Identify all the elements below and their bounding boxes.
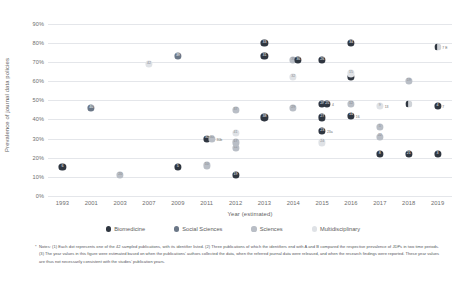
gridline [48, 100, 452, 101]
legend-swatch-icon [174, 226, 179, 231]
data-point[interactable]: 24 [319, 139, 326, 146]
gridline [48, 196, 452, 197]
y-tick-label: 40% [33, 116, 45, 122]
data-point-label: 5 [177, 165, 179, 169]
data-point-label: 20 [118, 173, 122, 177]
data-point-label: 40 [89, 106, 93, 110]
plot-area: 0%10%20%30%40%50%60%70%80%90% 1993200120… [48, 14, 452, 196]
footnote: *Notes: (1) Each dot represents one of t… [39, 243, 439, 265]
data-point-note: 7 [442, 105, 444, 109]
data-point[interactable]: 32 [290, 74, 297, 81]
data-point-label: 15 [349, 72, 353, 76]
legend-label: Biomedicine [114, 226, 145, 232]
footnote-marker: * [35, 243, 37, 250]
data-point[interactable]: 23 [319, 127, 326, 134]
data-point-label: 30 [210, 137, 214, 141]
x-tick-label: 2013 [258, 200, 271, 206]
data-point[interactable]: 41 [232, 129, 239, 136]
data-point[interactable]: 5 [174, 164, 181, 171]
data-point-label: 19 [407, 79, 411, 83]
data-point[interactable]: 29 [290, 104, 297, 111]
data-point-note: 16 [356, 115, 360, 119]
y-tick-label: 60% [33, 78, 45, 84]
legend-item-social-sciences[interactable]: Social Sciences [174, 226, 222, 232]
legend-item-biomedicine[interactable]: Biomedicine [106, 226, 145, 232]
data-point[interactable]: 21 [405, 150, 412, 157]
data-point[interactable]: 5 [376, 123, 383, 130]
data-point[interactable]: 3 [434, 150, 441, 157]
data-point[interactable] [405, 100, 412, 107]
data-point-label: 41 [234, 131, 238, 135]
data-point-note: 13 [385, 105, 389, 109]
x-axis-title: Year (estimated) [228, 211, 273, 217]
data-point-note: 23a [327, 130, 333, 134]
data-point[interactable]: 33 [261, 39, 268, 46]
data-point[interactable]: 42 [145, 60, 152, 67]
legend-swatch-icon [251, 226, 256, 231]
legend-item-multidisciplinary[interactable]: Multidisciplinary [312, 226, 360, 232]
x-tick-label: 2018 [402, 200, 415, 206]
gridline [48, 177, 452, 178]
data-point[interactable]: 34 [347, 39, 354, 46]
data-point-label: 36 [296, 58, 300, 62]
data-point-label: 9 [379, 104, 381, 108]
data-point-label: 23 [320, 129, 324, 133]
data-point-label: 10 [205, 164, 209, 168]
gridline [48, 158, 452, 159]
data-point[interactable]: 4 [434, 102, 441, 109]
data-point[interactable]: 6 [59, 164, 66, 171]
y-tick-label: 20% [33, 155, 45, 161]
data-point[interactable]: 30 [208, 135, 215, 142]
legend-label: Multidisciplinary [320, 226, 360, 232]
data-point-label: 42 [147, 62, 151, 66]
data-point-label: 29 [291, 106, 295, 110]
x-tick-label: 2012 [229, 200, 242, 206]
y-tick-label: 70% [33, 59, 45, 65]
data-point-label: 6 [61, 165, 63, 169]
data-point[interactable]: 14 [347, 112, 354, 119]
x-tick-label: 1993 [56, 200, 69, 206]
x-tick-label: 2019 [431, 200, 444, 206]
data-point[interactable]: 12 [347, 100, 354, 107]
legend-item-sciences[interactable]: Sciences [251, 226, 282, 232]
data-point-label: 12 [349, 102, 353, 106]
y-tick-label: 0% [36, 193, 44, 199]
data-point-label: 38 [262, 116, 266, 120]
data-point[interactable]: 37 [232, 106, 239, 113]
data-point[interactable]: 39 [174, 53, 181, 60]
data-point-label: 22 [378, 135, 382, 139]
data-point-label: 3 [437, 152, 439, 156]
data-point[interactable] [434, 43, 441, 50]
x-tick-label: 2009 [171, 200, 184, 206]
gridline [48, 139, 452, 140]
data-point-label: 33 [262, 41, 266, 45]
data-point-label: 39 [176, 54, 180, 58]
data-point-label: 8 [379, 152, 381, 156]
data-point[interactable]: 31 [261, 53, 268, 60]
y-axis-title: Prevalence of journal data policies [4, 58, 10, 152]
x-tick-label: 2011 [200, 200, 213, 206]
data-point[interactable]: 25 [324, 100, 331, 107]
data-point-label: 11 [234, 146, 238, 150]
data-point-label: 24 [320, 141, 324, 145]
data-point[interactable]: 8 [376, 150, 383, 157]
y-tick-label: 90% [33, 21, 45, 27]
figure-scatter-journal-data-policies: Prevalence of journal data policies Year… [0, 0, 466, 288]
y-tick-label: 50% [33, 97, 45, 103]
data-point[interactable]: 9 [376, 102, 383, 109]
data-point-label: 26 [320, 58, 324, 62]
x-tick-label: 2016 [344, 200, 357, 206]
y-tick-label: 80% [33, 40, 45, 46]
x-tick-label: 2003 [113, 200, 126, 206]
data-point-note: 30b [217, 138, 223, 142]
data-point[interactable]: 10 [203, 162, 210, 169]
data-point[interactable]: 40 [88, 104, 95, 111]
x-tick-label: 2017 [373, 200, 386, 206]
gridline [48, 62, 452, 63]
data-point-label: 25 [325, 102, 329, 106]
data-point[interactable]: 19 [405, 77, 412, 84]
gridline [48, 24, 452, 25]
data-point-label: 27 [320, 116, 324, 120]
y-tick-label: 30% [33, 136, 45, 142]
data-point-label: 31 [262, 54, 266, 58]
